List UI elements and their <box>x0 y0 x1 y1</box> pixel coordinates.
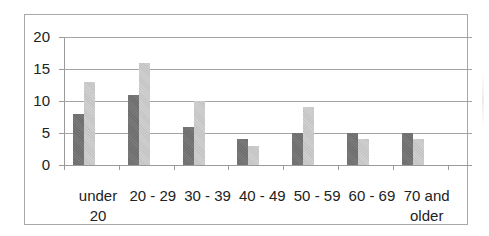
y-tick-label: 10 <box>20 92 50 109</box>
x-tick <box>228 165 229 170</box>
x-tick <box>119 165 120 170</box>
bar-series2 <box>413 139 424 165</box>
y-tick-label: 15 <box>20 60 50 77</box>
bar-series1 <box>73 114 84 165</box>
bar-series1 <box>292 133 303 165</box>
plot-area <box>64 37 472 165</box>
x-axis-line <box>64 165 472 166</box>
y-tick <box>59 69 64 70</box>
bar-series1 <box>128 95 139 165</box>
bar-series2 <box>84 82 95 165</box>
x-tick <box>174 165 175 170</box>
bar-series2 <box>303 107 314 165</box>
bar-series2 <box>248 146 259 165</box>
x-tick <box>393 165 394 170</box>
bar-series1 <box>347 133 358 165</box>
bar-series1 <box>237 139 248 165</box>
y-tick-label: 5 <box>20 124 50 141</box>
clipped-legend-artifact <box>482 70 484 130</box>
y-tick <box>59 133 64 134</box>
x-tick <box>64 165 65 170</box>
y-tick-label: 0 <box>20 156 50 173</box>
gridline <box>64 101 472 102</box>
x-tick <box>338 165 339 170</box>
y-tick <box>59 101 64 102</box>
gridline <box>64 69 472 70</box>
y-axis-line <box>64 37 65 167</box>
bar-series2 <box>139 63 150 165</box>
bar-series2 <box>358 139 369 165</box>
bar-series2 <box>194 101 205 165</box>
x-tick <box>283 165 284 170</box>
gridline <box>64 37 472 38</box>
x-tick <box>448 165 449 170</box>
y-tick <box>59 37 64 38</box>
x-tick-label: 70 andolder <box>395 186 459 226</box>
bar-series1 <box>402 133 413 165</box>
bar-series1 <box>183 127 194 165</box>
y-tick-label: 20 <box>20 28 50 45</box>
